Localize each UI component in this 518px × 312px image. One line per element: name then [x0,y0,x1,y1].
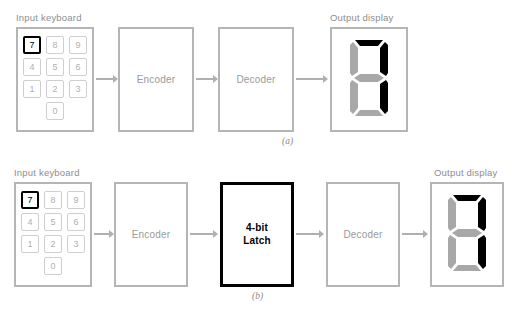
decoder-label-b: Decoder [343,229,382,240]
arrow-latch-to-decoder-b [296,230,324,238]
key-8-a[interactable]: 8 [46,36,64,54]
arrow-keyboard-to-encoder-b [94,230,114,238]
segment-g-middle [354,74,384,82]
key-0-a[interactable]: 0 [46,102,64,120]
key-9-b[interactable]: 9 [67,191,85,209]
key-1-b[interactable]: 1 [21,235,39,253]
seven-segment-digit-a [346,38,392,122]
encoder-label-a: Encoder [137,74,176,85]
key-0-b[interactable]: 0 [44,257,62,275]
key-4-a[interactable]: 4 [23,58,41,76]
output-display-caption-b: Output display [434,167,498,178]
output-display-caption-a: Output display [330,12,394,23]
key-3-b[interactable]: 3 [67,235,85,253]
key-5-a[interactable]: 5 [46,58,64,76]
key-2-a[interactable]: 2 [46,80,64,98]
keypad-grid-a: 7 8 9 4 5 6 1 2 3 0 [18,29,92,130]
keypad-row: 0 [46,102,64,120]
keypad-grid-b: 7 8 9 4 5 6 1 2 3 0 [16,184,90,285]
segment-g-middle [452,229,482,237]
key-2-b[interactable]: 2 [44,235,62,253]
key-8-b[interactable]: 8 [44,191,62,209]
input-keyboard-caption-b: Input keyboard [14,167,80,178]
latch-label-line2: Latch [243,235,271,248]
decoder-block-a[interactable]: Decoder [218,27,294,132]
encoder-label-b: Encoder [132,229,171,240]
key-9-a[interactable]: 9 [69,36,87,54]
key-3-a[interactable]: 3 [69,80,87,98]
keypad-row: 1 2 3 [23,80,87,98]
decoder-block-b[interactable]: Decoder [326,182,400,287]
latch-label-b: 4-bit Latch [243,222,271,247]
figure-canvas: Input keyboard 7 8 9 4 5 6 1 2 3 [0,0,518,312]
decoder-label-a: Decoder [236,74,275,85]
figure-label-b: (b) [252,291,263,301]
keypad-row: 7 8 9 [23,36,87,54]
figure-label-a: (a) [282,136,293,146]
keypad-row: 1 2 3 [21,235,85,253]
output-display-b [430,182,504,287]
seven-segment-svg-a [346,38,392,118]
keypad-row: 4 5 6 [23,58,87,76]
segment-b-top-right [478,197,486,231]
key-6-b[interactable]: 6 [67,213,85,231]
segment-c-bottom-right [380,80,388,114]
keypad-row: 4 5 6 [21,213,85,231]
segment-a-top [355,40,383,46]
segment-b-top-right [380,42,388,76]
arrow-decoder-to-display-a [296,75,328,83]
keypad-row: 0 [44,257,62,275]
segment-f-top-left [448,197,456,231]
key-1-a[interactable]: 1 [23,80,41,98]
latch-block-b[interactable]: 4-bit Latch [220,182,294,287]
arrow-encoder-to-latch-b [190,230,218,238]
segment-a-top [453,195,481,201]
input-keyboard-a[interactable]: 7 8 9 4 5 6 1 2 3 0 [16,27,94,132]
seven-segment-digit-b [444,193,490,277]
latch-label-line1: 4-bit [243,222,271,235]
key-4-b[interactable]: 4 [21,213,39,231]
segment-c-bottom-right [478,235,486,269]
key-6-a[interactable]: 6 [69,58,87,76]
arrow-keyboard-to-encoder-a [96,75,118,83]
key-7-a[interactable]: 7 [23,36,41,54]
input-keyboard-b[interactable]: 7 8 9 4 5 6 1 2 3 0 [14,182,92,287]
segment-d-bottom [355,110,383,116]
arrow-decoder-to-display-b [402,230,428,238]
segment-e-bottom-left [350,80,358,114]
key-7-b[interactable]: 7 [21,191,39,209]
segment-d-bottom [453,265,481,271]
arrow-encoder-to-decoder-a [196,75,218,83]
encoder-block-b[interactable]: Encoder [114,182,188,287]
keypad-row: 7 8 9 [21,191,85,209]
encoder-block-a[interactable]: Encoder [118,27,194,132]
key-5-b[interactable]: 5 [44,213,62,231]
segment-f-top-left [350,42,358,76]
output-display-a [330,27,408,132]
segment-e-bottom-left [448,235,456,269]
input-keyboard-caption-a: Input keyboard [16,12,82,23]
seven-segment-svg-b [444,193,490,273]
